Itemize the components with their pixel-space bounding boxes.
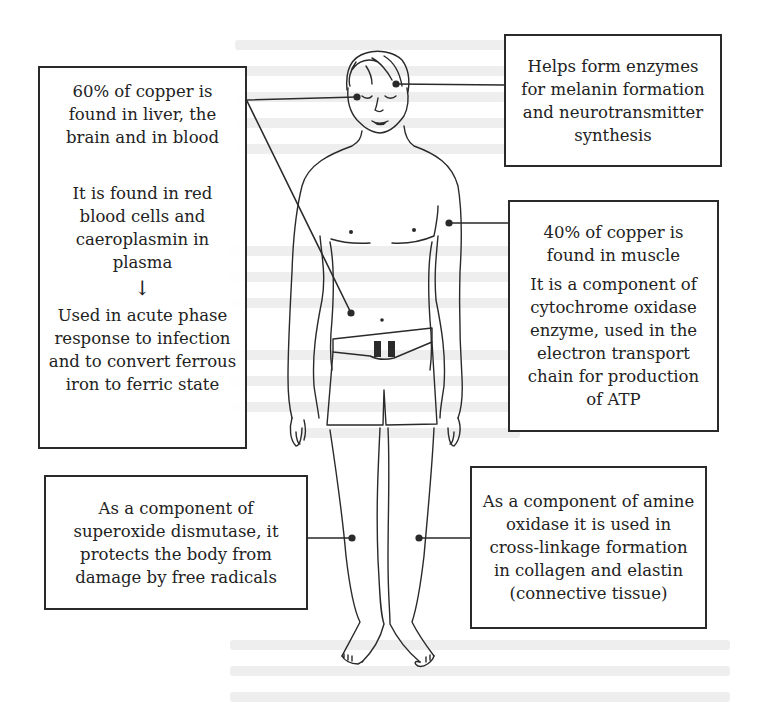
callout-amine-oxidase: As a component of amine oxidase it is us… (470, 466, 707, 629)
callout-text: Used in acute phase response to infectio… (48, 304, 237, 396)
belt-buckle-right (388, 341, 395, 357)
callout-text: 60% of copper is found in liver, the bra… (48, 80, 237, 149)
dot-superoxide (348, 534, 355, 541)
callout-liver-brain-blood: 60% of copper is found in liver, the bra… (38, 66, 247, 218)
closed-eye-right (385, 96, 396, 98)
callout-text: It is a component of cytochrome oxidase … (518, 273, 709, 411)
inner-arm-right (435, 236, 444, 418)
nose (375, 98, 383, 112)
inner-arm-left (313, 236, 323, 418)
leader-dots (347, 80, 452, 541)
foot-right (342, 654, 363, 664)
chest-lines (331, 206, 438, 243)
leader-lines (245, 84, 508, 538)
closed-eye-left (362, 96, 372, 98)
callout-melanin-neurotransmitter: Helps form enzymes for melanin formation… (504, 34, 722, 167)
hand-left (290, 418, 305, 446)
leg-right-outer (330, 430, 360, 656)
dot-amine (415, 534, 422, 541)
dot-melanin (392, 80, 399, 87)
nipple-right (412, 228, 416, 232)
dot-brain (353, 93, 360, 100)
dot-muscle (445, 219, 452, 226)
leader-line-melanin (396, 84, 504, 85)
callout-text: Helps form enzymes for melanin formation… (514, 55, 712, 147)
mouth (372, 121, 388, 125)
callout-superoxide-dismutase: As a component of superoxide dismutase, … (44, 475, 308, 610)
hair (347, 51, 409, 92)
callout-text: As a component of amine oxidase it is us… (480, 490, 697, 605)
callout-text: 40% of copper is found in muscle (518, 221, 709, 267)
shorts (327, 342, 437, 425)
belt (333, 328, 432, 359)
callout-text: As a component of superoxide dismutase, … (54, 497, 298, 589)
down-arrow-icon: ↓ (48, 276, 237, 300)
leader-line-brain (245, 97, 357, 100)
nipple-left (349, 230, 353, 234)
navel (380, 318, 384, 322)
belt-buckle-left (374, 341, 381, 357)
hand-right (448, 418, 460, 446)
callout-muscle-cytochrome: 40% of copper is found in muscle It is a… (508, 200, 719, 432)
torso-outline (288, 131, 362, 418)
leg-left-outer (412, 428, 434, 656)
leader-line-liver (247, 101, 351, 313)
leg-inner-right (362, 428, 384, 662)
dot-liver (347, 309, 354, 316)
